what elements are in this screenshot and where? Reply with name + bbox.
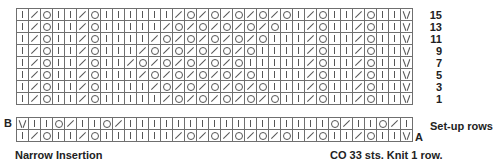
chart-cell xyxy=(245,21,257,33)
chart-cell xyxy=(245,130,257,142)
chart-cell xyxy=(53,33,65,45)
chart-cell xyxy=(65,33,77,45)
chart-cell xyxy=(53,21,65,33)
chart-cell xyxy=(89,45,101,57)
decrease-stitch-icon xyxy=(29,45,40,56)
chart-cell xyxy=(125,93,137,105)
decrease-stitch-icon xyxy=(65,118,76,129)
yarn-over-icon xyxy=(245,69,256,80)
chart-cell xyxy=(197,9,209,21)
chart-cell xyxy=(365,81,377,93)
knit-stitch-icon xyxy=(125,118,136,129)
knit-stitch-icon xyxy=(53,130,64,141)
chart-cell xyxy=(221,130,233,142)
decrease-stitch-icon xyxy=(149,57,160,68)
chart-cell xyxy=(173,33,185,45)
chart-cell xyxy=(377,33,389,45)
chart-cell xyxy=(281,81,293,93)
chart-cell xyxy=(65,69,77,81)
yarn-over-icon xyxy=(233,9,244,20)
knit-stitch-icon xyxy=(329,69,340,80)
chart-cell xyxy=(197,118,209,130)
chart-cell xyxy=(77,57,89,69)
yarn-over-icon xyxy=(317,57,328,68)
chart-cell xyxy=(257,118,269,130)
row-number: 11 xyxy=(420,33,442,45)
chart-cell xyxy=(341,93,353,105)
chart-cell xyxy=(113,69,125,81)
chart-cell xyxy=(293,21,305,33)
chart-cell xyxy=(137,45,149,57)
chart-cell xyxy=(137,57,149,69)
yarn-over-icon xyxy=(365,69,376,80)
yarn-over-icon xyxy=(89,45,100,56)
chart-cell xyxy=(149,33,161,45)
chart-cell xyxy=(113,118,125,130)
chart-row xyxy=(17,45,413,57)
knit-stitch-icon xyxy=(137,21,148,32)
chart-cell xyxy=(245,57,257,69)
yarn-over-icon xyxy=(257,130,268,141)
knit-stitch-icon xyxy=(293,69,304,80)
chart-row xyxy=(17,57,413,69)
chart-cell xyxy=(161,45,173,57)
knit-stitch-icon xyxy=(269,45,280,56)
chart-cell xyxy=(17,130,29,142)
chart-cell xyxy=(221,57,233,69)
knit-stitch-icon xyxy=(281,118,292,129)
knit-stitch-icon xyxy=(53,33,64,44)
yarn-over-icon xyxy=(41,33,52,44)
decrease-stitch-icon xyxy=(353,57,364,68)
decrease-stitch-icon xyxy=(197,57,208,68)
chart-cell xyxy=(293,69,305,81)
decrease-stitch-icon xyxy=(29,130,40,141)
decrease-stitch-icon xyxy=(29,81,40,92)
chart-cell xyxy=(365,33,377,45)
chart-cell xyxy=(89,118,101,130)
chart-cell xyxy=(29,21,41,33)
decrease-stitch-icon xyxy=(353,81,364,92)
chart-cell xyxy=(245,118,257,130)
yarn-over-icon xyxy=(209,33,220,44)
chart-cell xyxy=(77,118,89,130)
knit-stitch-icon xyxy=(137,33,148,44)
knit-stitch-icon xyxy=(293,93,304,104)
chart-cell xyxy=(341,33,353,45)
decrease-stitch-icon xyxy=(341,118,352,129)
decrease-stitch-icon xyxy=(233,21,244,32)
chart-cell xyxy=(185,69,197,81)
chart-cell xyxy=(293,81,305,93)
knit-stitch-icon xyxy=(377,33,388,44)
yarn-over-icon xyxy=(365,9,376,20)
knit-stitch-icon xyxy=(17,33,28,44)
knit-stitch-icon xyxy=(317,118,328,129)
knit-stitch-icon xyxy=(65,69,76,80)
knit-stitch-icon xyxy=(149,21,160,32)
knit-stitch-icon xyxy=(65,9,76,20)
knit-stitch-icon xyxy=(101,21,112,32)
decrease-stitch-icon xyxy=(245,130,256,141)
knit-stitch-icon xyxy=(185,118,196,129)
row-number: 3 xyxy=(420,81,442,93)
knit-stitch-icon xyxy=(221,118,232,129)
slip-stitch-icon xyxy=(401,21,412,32)
decrease-stitch-icon xyxy=(221,130,232,141)
decrease-stitch-icon xyxy=(197,130,208,141)
chart-cell xyxy=(341,9,353,21)
chart-cell xyxy=(365,45,377,57)
chart-cell xyxy=(329,57,341,69)
chart-cell xyxy=(245,81,257,93)
chart-cell xyxy=(401,21,413,33)
knit-stitch-icon xyxy=(101,9,112,20)
chart-cell xyxy=(209,33,221,45)
decrease-stitch-icon xyxy=(209,21,220,32)
yarn-over-icon xyxy=(233,81,244,92)
decrease-stitch-icon xyxy=(197,81,208,92)
chart-cell xyxy=(53,69,65,81)
knit-stitch-icon xyxy=(137,9,148,20)
decrease-stitch-icon xyxy=(173,33,184,44)
decrease-stitch-icon xyxy=(161,69,172,80)
knit-stitch-icon xyxy=(293,33,304,44)
chart-cell xyxy=(17,33,29,45)
knit-stitch-icon xyxy=(53,57,64,68)
